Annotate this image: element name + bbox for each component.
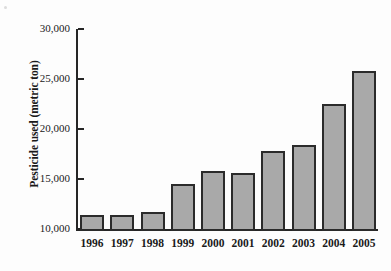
bar-2004 xyxy=(322,104,346,231)
bar-2001 xyxy=(231,173,255,231)
x-tick-label-1998: 1998 xyxy=(137,236,167,250)
x-tick-label-2005: 2005 xyxy=(349,236,379,250)
plot-area xyxy=(76,29,378,231)
bar-2000 xyxy=(201,171,225,231)
bar-2005 xyxy=(352,71,376,231)
bar-1996 xyxy=(80,215,104,231)
x-tick-label-2000: 2000 xyxy=(198,236,228,250)
x-tick-label-2003: 2003 xyxy=(288,236,318,250)
y-tick-label: 25,000 xyxy=(14,73,70,84)
bar-1997 xyxy=(110,215,134,231)
bar-1998 xyxy=(141,212,165,231)
y-tick-label: 10,000 xyxy=(14,223,70,234)
y-tick-label: 30,000 xyxy=(14,23,70,34)
x-tick-label-1997: 1997 xyxy=(107,236,137,250)
x-tick-label-2002: 2002 xyxy=(258,236,288,250)
y-tick-label: 15,000 xyxy=(14,173,70,184)
scan-artifact xyxy=(4,6,7,9)
x-tick-label-1996: 1996 xyxy=(77,236,107,250)
x-axis-tick-labels: 1996199719981999200020012002200320042005 xyxy=(76,236,378,256)
x-tick-label-2001: 2001 xyxy=(228,236,258,250)
bar-2003 xyxy=(292,145,316,231)
bar-1999 xyxy=(171,184,195,231)
y-axis-tick-labels: 10,00015,00020,00025,00030,000 xyxy=(12,29,70,231)
pesticide-use-bar-chart: Pesticide used (metric ton) 10,00015,000… xyxy=(0,0,391,271)
y-tick-label: 20,000 xyxy=(14,123,70,134)
x-tick-label-1999: 1999 xyxy=(168,236,198,250)
bars-layer xyxy=(76,29,378,229)
x-tick-label-2004: 2004 xyxy=(319,236,349,250)
bar-2002 xyxy=(261,151,285,231)
